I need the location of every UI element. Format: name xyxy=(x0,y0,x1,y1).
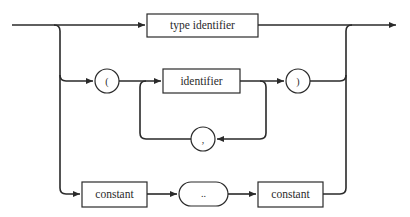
merge-from-paren xyxy=(310,75,346,81)
range-label: .. xyxy=(201,188,206,199)
syntax-diagram: type identifier ( identifier ) , constan… xyxy=(0,0,410,217)
right-merge-rail xyxy=(323,25,352,194)
comma-label: , xyxy=(202,134,205,145)
constant-lower-node: constant xyxy=(82,182,147,207)
open-paren-node: ( xyxy=(95,69,119,93)
constant-upper-node: constant xyxy=(258,182,323,207)
range-node: .. xyxy=(179,182,228,206)
comma-node: , xyxy=(191,127,215,151)
left-branch-rail xyxy=(54,25,80,194)
identifier-node: identifier xyxy=(163,69,240,93)
type-identifier-node: type identifier xyxy=(147,14,258,37)
branch-to-paren xyxy=(60,75,93,81)
constant-lower-label: constant xyxy=(95,188,134,200)
identifier-label: identifier xyxy=(180,75,222,87)
type-identifier-label: type identifier xyxy=(170,19,235,32)
close-paren-node: ) xyxy=(286,69,310,93)
close-paren-label: ) xyxy=(296,76,299,88)
constant-upper-label: constant xyxy=(271,188,310,200)
